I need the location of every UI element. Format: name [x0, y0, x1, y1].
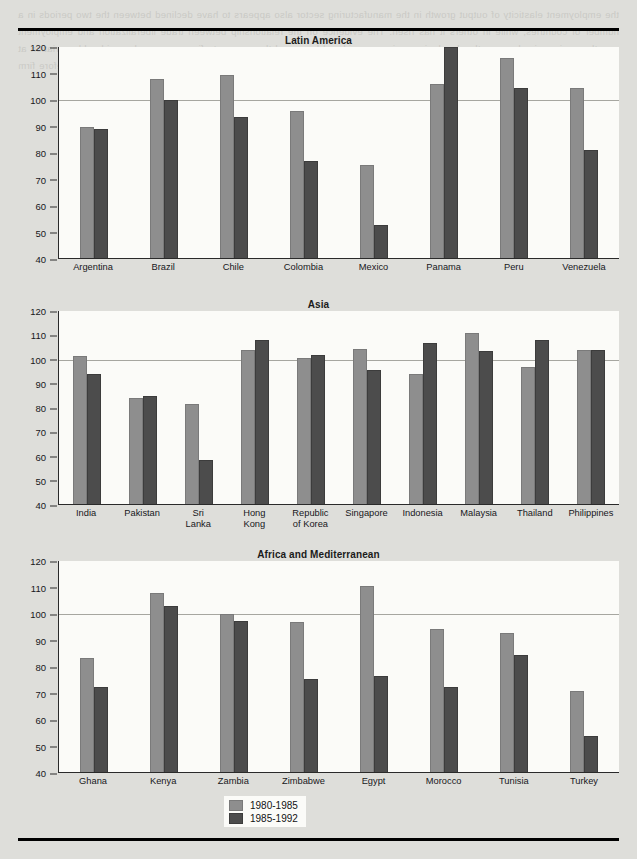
x-axis-label: Singapore — [338, 505, 394, 529]
bar-1980-1985 — [220, 75, 234, 259]
x-axis-label: Kenya — [128, 773, 198, 787]
bar-1980-1985 — [353, 349, 367, 505]
y-axis-tick: 120 — [30, 42, 46, 53]
x-axis-label: Malaysia — [451, 505, 507, 529]
bar-1980-1985 — [521, 367, 535, 505]
x-axis-label: Republic of Korea — [282, 505, 338, 529]
legend-label: 1985-1992 — [250, 813, 298, 824]
chart-panel-latin-america: Latin America 120110100908070605040 Arge… — [18, 34, 619, 259]
x-axis-labels: IndiaPakistanSri LankaHong KongRepublic … — [58, 505, 619, 529]
x-axis-label: Venezuela — [549, 259, 619, 273]
bar-1980-1985 — [150, 79, 164, 259]
y-axis-tick-mark — [50, 259, 57, 260]
top-rule — [18, 28, 619, 31]
bar-1985-1992 — [584, 150, 598, 259]
chart-title: Asia — [18, 298, 619, 311]
bar-group — [269, 561, 339, 773]
legend-item: 1985-1992 — [229, 812, 298, 824]
bar-group — [409, 47, 479, 259]
y-axis-tick: 50 — [35, 227, 46, 238]
bar-groups — [59, 47, 619, 259]
bar-group — [199, 561, 269, 773]
y-axis-tick: 100 — [30, 95, 46, 106]
bar-group — [395, 311, 451, 505]
bar-1980-1985 — [570, 88, 584, 259]
x-axis-label: Mexico — [339, 259, 409, 273]
y-axis-tick-mark — [50, 311, 57, 312]
x-axis-label: Turkey — [549, 773, 619, 787]
bar-1980-1985 — [290, 111, 304, 259]
legend-swatch-1980-1985 — [229, 800, 243, 811]
bar-1980-1985 — [73, 356, 87, 505]
y-axis-tick: 40 — [35, 254, 46, 265]
bar-group — [171, 311, 227, 505]
y-axis-tick-mark — [50, 180, 57, 181]
bar-group — [339, 311, 395, 505]
bar-group — [59, 311, 115, 505]
bar-groups — [59, 311, 619, 505]
y-axis-tick-mark — [50, 667, 57, 668]
bar-1980-1985 — [465, 333, 479, 505]
y-axis-tick: 60 — [35, 201, 46, 212]
x-axis-label: Thailand — [507, 505, 563, 529]
legend-swatch-1985-1992 — [229, 813, 243, 824]
plot-canvas — [58, 311, 619, 505]
x-axis-label: Zambia — [198, 773, 268, 787]
y-axis-tick: 50 — [35, 741, 46, 752]
bar-1980-1985 — [570, 691, 584, 773]
bar-group — [115, 311, 171, 505]
y-axis-tick-mark — [50, 457, 57, 458]
y-axis-tick: 90 — [35, 378, 46, 389]
bar-1985-1992 — [514, 88, 528, 259]
bar-group — [549, 561, 619, 773]
y-axis-tick-mark — [50, 588, 57, 589]
x-axis-labels: GhanaKenyaZambiaZimbabweEgyptMoroccoTuni… — [58, 773, 619, 787]
bar-1985-1992 — [444, 47, 458, 259]
y-axis-tick-mark — [50, 408, 57, 409]
y-axis-tick: 70 — [35, 688, 46, 699]
plot-area: 120110100908070605040 — [18, 561, 619, 773]
bar-1985-1992 — [514, 655, 528, 773]
x-axis-label: Morocco — [409, 773, 479, 787]
y-axis-tick-mark — [50, 335, 57, 336]
y-axis-tick-mark — [50, 747, 57, 748]
y-axis-tick-mark — [50, 153, 57, 154]
y-axis-tick: 80 — [35, 148, 46, 159]
x-axis-label: Zimbabwe — [268, 773, 338, 787]
bar-1985-1992 — [311, 355, 325, 505]
bar-group — [199, 47, 269, 259]
x-axis-label: Hong Kong — [226, 505, 282, 529]
y-axis-tick-mark — [50, 100, 57, 101]
bar-1980-1985 — [185, 404, 199, 505]
bar-group — [283, 311, 339, 505]
bar-1985-1992 — [304, 161, 318, 259]
bar-1985-1992 — [94, 687, 108, 773]
y-axis-tick: 40 — [35, 500, 46, 511]
figure-sheet: Latin America 120110100908070605040 Arge… — [0, 0, 637, 859]
bar-group — [129, 561, 199, 773]
bar-1985-1992 — [304, 679, 318, 773]
chart-title: Africa and Mediterranean — [18, 548, 619, 561]
x-axis-label: Panama — [409, 259, 479, 273]
y-axis-tick: 90 — [35, 635, 46, 646]
y-axis-tick: 110 — [31, 68, 46, 79]
bar-group — [549, 47, 619, 259]
chart-panel-africa-mediterranean: Africa and Mediterranean 120110100908070… — [18, 548, 619, 773]
bar-group — [269, 47, 339, 259]
bar-1980-1985 — [500, 58, 514, 259]
y-axis-tick: 40 — [35, 768, 46, 779]
bar-group — [507, 311, 563, 505]
x-axis-label: Philippines — [563, 505, 619, 529]
x-axis-label: Peru — [479, 259, 549, 273]
x-axis-label: Egypt — [339, 773, 409, 787]
y-axis-tick-mark — [50, 641, 57, 642]
x-axis-label: India — [58, 505, 114, 529]
y-axis-tick-mark — [50, 127, 57, 128]
y-axis-tick: 80 — [35, 662, 46, 673]
y-axis-tick: 80 — [35, 403, 46, 414]
bar-1980-1985 — [241, 350, 255, 505]
y-axis-tick: 120 — [30, 306, 46, 317]
bottom-rule — [18, 838, 619, 841]
y-axis-tick-mark — [50, 384, 57, 385]
x-axis-label: Sri Lanka — [170, 505, 226, 529]
